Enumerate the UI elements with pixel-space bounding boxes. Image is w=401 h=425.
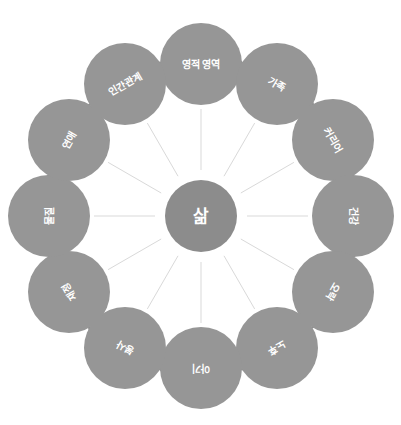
spoke-line-12 — [147, 123, 178, 176]
outer-node-label-1: 영적 영역 — [182, 58, 221, 70]
outer-node-6[interactable]: 노후 — [236, 307, 318, 389]
outer-node-1[interactable]: 영적 영역 — [160, 23, 242, 105]
spoke-line-2 — [224, 123, 255, 176]
outer-node-12[interactable]: 인간관계 — [84, 43, 166, 125]
outer-node-7[interactable]: 아기 — [160, 327, 242, 409]
wheel-canvas: 영적 영역가족커리어건강오락노후아기봉사재정물질연애인간관계 삶 — [0, 0, 401, 425]
outer-node-label-7: 아기 — [192, 363, 210, 375]
outer-node-3[interactable]: 커리어 — [292, 99, 374, 181]
outer-node-10[interactable]: 물질 — [8, 175, 90, 257]
spoke-line-6 — [224, 256, 255, 309]
spoke-line-9 — [108, 239, 161, 270]
outer-node-9[interactable]: 재정 — [28, 251, 110, 333]
spoke-line-11 — [108, 162, 161, 193]
spoke-line-5 — [241, 239, 294, 270]
life-wheel-diagram: 영적 영역가족커리어건강오락노후아기봉사재정물질연애인간관계 삶 — [0, 0, 401, 425]
spoke-line-8 — [147, 256, 178, 309]
outer-node-4[interactable]: 건강 — [312, 175, 394, 257]
outer-node-label-10: 물질 — [44, 207, 55, 225]
center-node-group[interactable]: 삶 — [165, 180, 237, 252]
center-node-label: 삶 — [193, 207, 209, 226]
outer-node-label-4: 건강 — [348, 207, 360, 226]
spoke-line-3 — [241, 162, 294, 193]
